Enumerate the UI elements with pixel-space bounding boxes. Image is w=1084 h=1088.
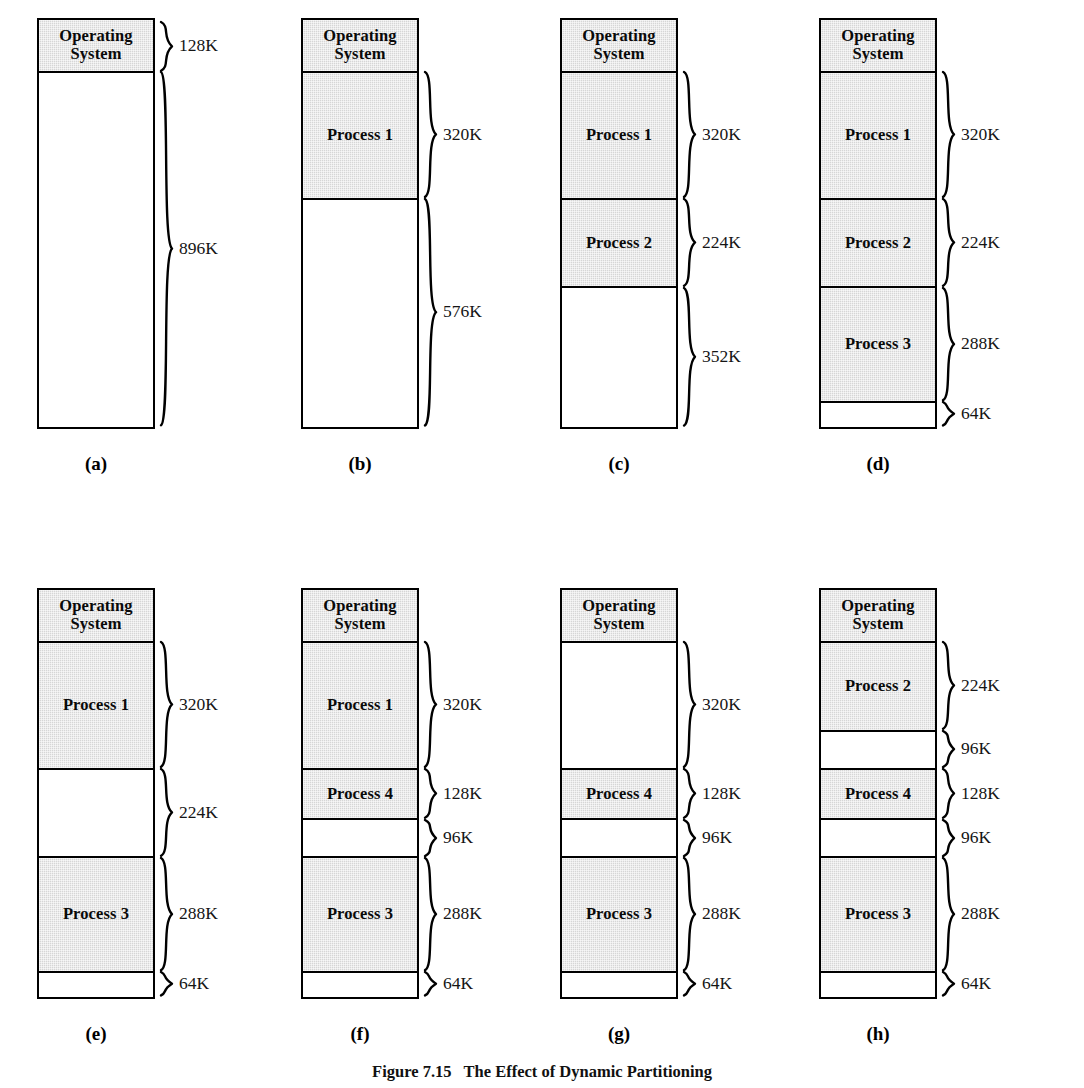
- size-label: 96K: [961, 829, 991, 847]
- memory-block-label: Operating System: [323, 27, 396, 64]
- memory-block-operating-system: Operating System: [39, 20, 153, 71]
- size-label: 320K: [702, 696, 741, 714]
- memory-block-process-4: Process 4: [562, 768, 676, 819]
- size-brace: [159, 641, 175, 768]
- memory-block-free: [562, 641, 676, 768]
- size-label: 64K: [443, 975, 473, 993]
- memory-column: Operating SystemProcess 1Process 4Proces…: [301, 588, 419, 999]
- memory-block-process-3: Process 3: [821, 856, 935, 970]
- size-brace: [682, 71, 698, 198]
- memory-block-label: Process 2: [586, 234, 652, 252]
- size-brace: [941, 198, 957, 287]
- size-brace: [682, 971, 698, 996]
- memory-block-label: Process 1: [327, 126, 393, 144]
- size-brace: [941, 819, 957, 857]
- size-brace: [941, 857, 957, 971]
- memory-column: Operating System: [37, 18, 155, 429]
- memory-block-label: Process 3: [63, 905, 129, 923]
- size-brace: [682, 641, 698, 768]
- size-annotations: 320K224K288K64K: [155, 588, 260, 999]
- size-label: 224K: [961, 677, 1000, 695]
- size-label: 320K: [179, 696, 218, 714]
- size-brace: [682, 819, 698, 857]
- size-label: 320K: [443, 126, 482, 144]
- memory-block-label: Operating System: [841, 597, 914, 634]
- size-label: 576K: [443, 304, 482, 322]
- size-label: 288K: [179, 905, 218, 923]
- memory-block-process-1: Process 1: [303, 641, 417, 768]
- memory-block-process-3: Process 3: [562, 856, 676, 970]
- memory-column: Operating SystemProcess 4Process 3: [560, 588, 678, 999]
- size-label: 896K: [179, 240, 218, 258]
- size-brace: [159, 768, 175, 857]
- size-label: 96K: [702, 829, 732, 847]
- memory-block-process-4: Process 4: [821, 768, 935, 819]
- size-label: 128K: [961, 785, 1000, 803]
- memory-block-process-3: Process 3: [39, 856, 153, 970]
- memory-column: Operating SystemProcess 1Process 2: [560, 18, 678, 429]
- memory-block-process-1: Process 1: [562, 71, 676, 198]
- size-label: 288K: [961, 905, 1000, 923]
- memory-block-label: Operating System: [582, 27, 655, 64]
- size-annotations: 320K224K352K: [678, 18, 783, 429]
- memory-block-label: Process 2: [845, 677, 911, 695]
- memory-block-label: Process 3: [327, 905, 393, 923]
- size-label: 64K: [179, 975, 209, 993]
- size-label: 288K: [961, 335, 1000, 353]
- size-brace: [682, 768, 698, 819]
- memory-block-label: Process 3: [845, 905, 911, 923]
- memory-block-label: Process 3: [845, 335, 911, 353]
- size-brace: [423, 857, 439, 971]
- size-annotations: 320K224K288K64K: [937, 18, 1042, 429]
- memory-block-free: [39, 971, 153, 996]
- size-brace: [159, 857, 175, 971]
- panel-letter-g: (g): [560, 1023, 678, 1045]
- size-brace: [159, 971, 175, 996]
- size-brace: [423, 198, 439, 426]
- memory-block-label: Process 1: [845, 126, 911, 144]
- memory-block-free: [303, 198, 417, 426]
- memory-block-label: Operating System: [323, 597, 396, 634]
- size-brace: [941, 971, 957, 996]
- memory-block-free: [821, 401, 935, 426]
- size-label: 352K: [702, 348, 741, 366]
- size-label: 96K: [961, 740, 991, 758]
- panel-letter-c: (c): [560, 453, 678, 475]
- panel-letter-f: (f): [301, 1023, 419, 1045]
- size-brace: [423, 971, 439, 996]
- size-label: 96K: [443, 829, 473, 847]
- figure-caption: Figure 7.15The Effect of Dynamic Partiti…: [0, 1062, 1084, 1082]
- size-annotations: 320K128K96K288K64K: [419, 588, 524, 999]
- panel-letter-d: (d): [819, 453, 937, 475]
- memory-block-operating-system: Operating System: [821, 20, 935, 71]
- memory-block-label: Operating System: [582, 597, 655, 634]
- memory-column: Operating SystemProcess 1Process 2Proces…: [819, 18, 937, 429]
- size-brace: [159, 71, 175, 426]
- memory-block-free: [303, 971, 417, 996]
- memory-column: Operating SystemProcess 1Process 3: [37, 588, 155, 999]
- memory-block-process-1: Process 1: [303, 71, 417, 198]
- memory-block-free: [821, 730, 935, 768]
- size-brace: [423, 641, 439, 768]
- memory-partitioning-figure: Operating System128K896K(a)Operating Sys…: [0, 0, 1084, 1088]
- figure-caption-text: The Effect of Dynamic Partitioning: [464, 1062, 712, 1081]
- memory-block-free: [821, 818, 935, 856]
- memory-block-process-3: Process 3: [303, 856, 417, 970]
- size-label: 128K: [443, 785, 482, 803]
- memory-block-operating-system: Operating System: [562, 20, 676, 71]
- memory-block-label: Operating System: [59, 27, 132, 64]
- size-annotations: 128K896K: [155, 18, 260, 429]
- size-label: 64K: [961, 975, 991, 993]
- figure-caption-number: Figure 7.15: [372, 1062, 451, 1081]
- size-label: 288K: [443, 905, 482, 923]
- memory-block-label: Process 4: [586, 785, 652, 803]
- memory-block-free: [39, 768, 153, 857]
- memory-block-operating-system: Operating System: [303, 20, 417, 71]
- memory-block-process-1: Process 1: [821, 71, 935, 198]
- memory-block-operating-system: Operating System: [39, 590, 153, 641]
- size-brace: [423, 819, 439, 857]
- size-label: 320K: [443, 696, 482, 714]
- size-label: 320K: [702, 126, 741, 144]
- memory-block-label: Process 1: [63, 696, 129, 714]
- memory-block-process-2: Process 2: [821, 198, 935, 287]
